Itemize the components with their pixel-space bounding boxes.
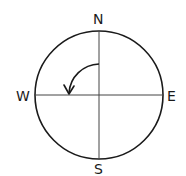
north-label: N <box>93 12 103 26</box>
rotation-arc <box>69 64 99 93</box>
east-label: E <box>167 89 176 103</box>
west-label: W <box>16 89 30 103</box>
south-label: S <box>94 162 103 176</box>
